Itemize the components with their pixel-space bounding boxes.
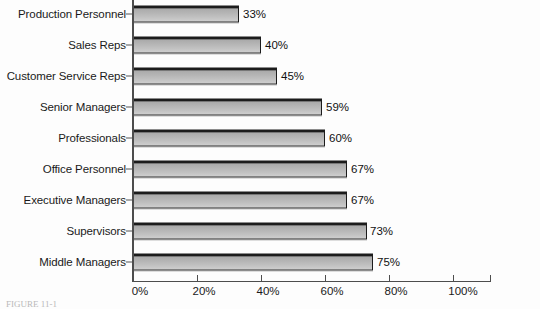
x-axis-tick: [389, 275, 390, 282]
x-axis-tick-label: 100%: [448, 285, 477, 297]
bar: [133, 161, 347, 178]
bar: [133, 68, 277, 85]
bar-value-label: 33%: [243, 8, 266, 20]
x-axis-tick-label: 60%: [320, 285, 343, 297]
bar-value-label: 67%: [351, 194, 374, 206]
x-axis-tick: [261, 275, 262, 282]
bar-chart: Production Personnel 33% Sales Reps 40% …: [0, 0, 540, 309]
category-label: Production Personnel: [18, 8, 126, 20]
x-axis-tick-label: 0%: [132, 285, 149, 297]
bar: [133, 223, 367, 240]
category-label: Senior Managers: [40, 101, 126, 113]
bar-value-label: 73%: [370, 225, 393, 237]
bar-value-label: 40%: [265, 39, 288, 51]
x-axis-tick: [133, 275, 134, 282]
x-axis-tick-label: 80%: [384, 285, 407, 297]
figure-caption: FIGURE 11-1: [0, 301, 540, 309]
bar: [133, 37, 261, 54]
bar: [133, 130, 325, 147]
bar: [133, 99, 322, 116]
chart-row: Executive Managers 67%: [0, 185, 540, 215]
bar: [133, 6, 239, 23]
bar: [133, 254, 373, 271]
chart-row: Sales Reps 40%: [0, 30, 540, 60]
bar-value-label: 67%: [351, 163, 374, 175]
x-axis-tick-label: 20%: [192, 285, 215, 297]
x-axis: [132, 281, 491, 282]
bar-value-label: 59%: [326, 101, 349, 113]
category-label: Executive Managers: [24, 194, 126, 206]
x-axis-tick: [325, 275, 326, 282]
x-axis-tick: [453, 275, 454, 282]
x-axis-tick: [197, 275, 198, 282]
bar: [133, 192, 347, 209]
category-label: Supervisors: [66, 225, 126, 237]
chart-row: Production Personnel 33%: [0, 0, 540, 29]
chart-row: Middle Managers 75%: [0, 247, 540, 277]
bar-value-label: 45%: [281, 70, 304, 82]
chart-row: Office Personnel 67%: [0, 154, 540, 184]
category-label: Professionals: [58, 132, 126, 144]
x-axis-tick-label: 40%: [256, 285, 279, 297]
category-label: Customer Service Reps: [7, 70, 126, 82]
chart-row: Supervisors 73%: [0, 216, 540, 246]
figure-caption-text: FIGURE 11-1: [6, 301, 57, 309]
plot-area: Production Personnel 33% Sales Reps 40% …: [0, 0, 540, 309]
chart-row: Professionals 60%: [0, 123, 540, 153]
chart-row: Senior Managers 59%: [0, 92, 540, 122]
bar-value-label: 75%: [377, 256, 400, 268]
category-label: Middle Managers: [39, 256, 126, 268]
category-label: Office Personnel: [43, 163, 126, 175]
bar-value-label: 60%: [329, 132, 352, 144]
y-axis: [132, 0, 134, 282]
category-label: Sales Reps: [68, 39, 126, 51]
chart-row: Customer Service Reps 45%: [0, 61, 540, 91]
x-axis-tick: [490, 275, 491, 282]
